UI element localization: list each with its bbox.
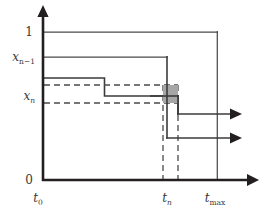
value-axis-arrow-head bbox=[37, 5, 48, 17]
time-axis-arrow-head bbox=[247, 174, 259, 186]
step-function-diagram: 1 xn−1 xn 0 t0 tn tmax bbox=[0, 0, 270, 213]
y-tick-label-xn-minus-1: xn−1 bbox=[12, 50, 35, 66]
highlight-rectangle bbox=[163, 85, 178, 103]
upper-exit-arrow-head bbox=[230, 109, 242, 120]
y-tick-xn-sub: n bbox=[30, 96, 35, 105]
figure-container: 1 xn−1 xn 0 t0 tn tmax bbox=[0, 0, 270, 213]
x-tick-label-tmax: tmax bbox=[205, 191, 226, 207]
y-tick-xn-minus-1-sub: n−1 bbox=[19, 57, 35, 66]
lower-exit-arrow-head bbox=[230, 133, 242, 144]
y-tick-label-zero: 0 bbox=[25, 173, 33, 187]
x-tick-label-tn: tn bbox=[162, 191, 172, 207]
x-tick-t0-sub: 0 bbox=[38, 198, 43, 207]
x-tick-tmax-sub: max bbox=[210, 198, 227, 207]
y-tick-label-one: 1 bbox=[25, 25, 33, 39]
x-tick-label-t0: t0 bbox=[33, 191, 43, 207]
x-tick-tn-sub: n bbox=[167, 198, 172, 207]
y-tick-label-xn: xn bbox=[23, 89, 35, 105]
